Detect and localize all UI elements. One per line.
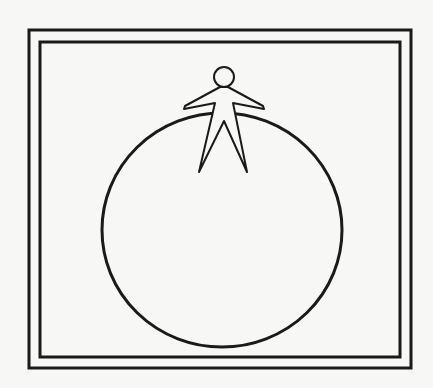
person-head [214, 67, 234, 87]
globe-circle [102, 113, 342, 347]
person-figure [184, 67, 264, 172]
person-body [184, 87, 264, 172]
figure-canvas [0, 0, 433, 388]
